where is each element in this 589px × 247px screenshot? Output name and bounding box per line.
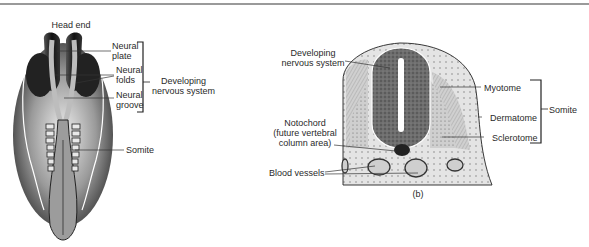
neural-plate-label: Neural plate xyxy=(112,41,139,61)
figure-b-caption: (b) xyxy=(408,189,428,199)
somite-label-b: Somite xyxy=(549,105,577,115)
developing-nervous-system-label-a: Developing nervous system xyxy=(152,76,215,96)
dns-b-line1: Developing xyxy=(278,48,348,58)
head-end-label: Head end xyxy=(46,20,96,30)
notochord-line1: Notochord xyxy=(272,118,338,128)
notochord-line2: (future vertebral xyxy=(272,128,338,138)
embryo-illustration xyxy=(13,33,150,241)
neural-plate-label-line1: Neural xyxy=(112,41,139,51)
neural-groove-label-line1: Neural xyxy=(116,90,144,100)
sclerotome-label: Sclerotome xyxy=(492,133,538,143)
notochord-label: Notochord (future vertebral column area) xyxy=(272,118,338,148)
myotome-label: Myotome xyxy=(484,83,521,93)
neural-folds-label-line1: Neural xyxy=(116,65,143,75)
neural-groove-label: Neural groove xyxy=(116,90,144,110)
notochord-line3: column area) xyxy=(272,138,338,148)
blood-vessels-label: Blood vessels xyxy=(269,168,325,178)
dns-a-line1: Developing xyxy=(152,76,215,86)
neural-groove-label-line2: groove xyxy=(116,100,144,110)
dns-a-line2: nervous system xyxy=(152,86,215,96)
somite-label-a: Somite xyxy=(126,145,154,155)
developing-nervous-system-label-b: Developing nervous system xyxy=(278,48,348,68)
dns-b-line2: nervous system xyxy=(278,58,348,68)
neural-folds-label-line2: folds xyxy=(116,75,143,85)
neural-plate-label-line2: plate xyxy=(112,51,139,61)
neural-folds-label: Neural folds xyxy=(116,65,143,85)
dermatome-label: Dermatome xyxy=(490,113,537,123)
